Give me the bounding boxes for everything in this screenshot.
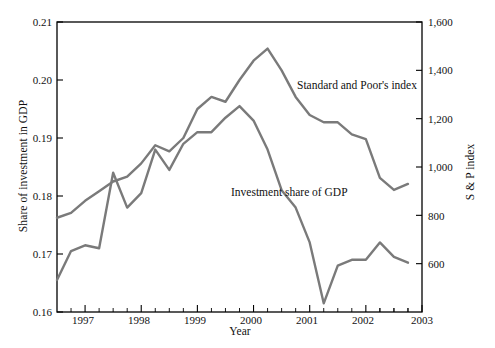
y-left-tick-label: 0.18 xyxy=(8,190,52,202)
y-right-tick-label: 600 xyxy=(428,258,474,270)
y-left-tick-label: 0.16 xyxy=(8,306,52,318)
y-left-tick-label: 0.17 xyxy=(8,248,52,260)
y-right-tick-label: 1,400 xyxy=(428,64,474,76)
y-left-tick-label: 0.19 xyxy=(8,132,52,144)
y-right-tick-label: 1,600 xyxy=(428,16,474,28)
y-left-tick-label: 0.20 xyxy=(8,74,52,86)
series-label-sp: Standard and Poor's index xyxy=(297,79,417,91)
plot-frame xyxy=(57,22,422,312)
y-left-tick-label: 0.21 xyxy=(8,16,52,28)
x-axis-title: Year xyxy=(57,325,423,337)
chart-canvas xyxy=(0,0,495,348)
y-axis-left-title: Share of investment in GDP xyxy=(17,66,29,266)
series-label-gdp: Investment share of GDP xyxy=(231,186,348,198)
y-axis-right-title: S & P index xyxy=(464,92,476,252)
chart-figure: 0.21 0.20 0.19 0.18 0.17 0.16 1,600 1,40… xyxy=(0,0,495,348)
